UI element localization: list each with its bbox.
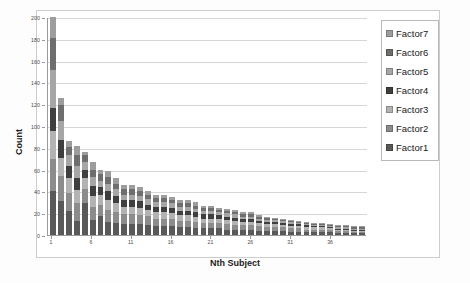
stacked-bar[interactable] <box>129 185 135 235</box>
legend-swatch-icon <box>386 106 393 113</box>
stacked-bar[interactable] <box>137 187 143 235</box>
bar-segment <box>90 170 96 178</box>
stacked-bar[interactable] <box>90 162 96 235</box>
legend-swatch-icon <box>386 125 393 132</box>
bar-segment <box>264 231 270 235</box>
bar-segment <box>58 176 64 201</box>
x-axis-tick-label: 26 <box>247 239 253 245</box>
bar-slot <box>65 18 73 235</box>
stacked-bar[interactable] <box>296 221 302 235</box>
bar-slot <box>97 18 105 235</box>
stacked-bar[interactable] <box>105 171 111 235</box>
bar-segment <box>74 221 80 235</box>
y-axis-tick-label: 0 <box>37 233 40 239</box>
stacked-bar[interactable] <box>58 98 64 235</box>
bar-segment <box>74 155 80 166</box>
bar-slot <box>350 18 358 235</box>
bar-slot <box>192 18 200 235</box>
stacked-bar[interactable] <box>201 206 207 235</box>
bar-segment <box>74 190 80 203</box>
legend-item-label: Factor7 <box>396 28 428 39</box>
stacked-bar[interactable] <box>304 222 310 235</box>
stacked-bar[interactable] <box>113 178 119 235</box>
bar-slot <box>184 18 192 235</box>
bar-slot <box>271 18 279 235</box>
stacked-bar[interactable] <box>248 212 254 235</box>
bar-segment <box>74 146 80 156</box>
stacked-bar[interactable] <box>327 224 333 235</box>
bar-slot <box>318 18 326 235</box>
x-axis-tick-label: 1 <box>50 239 53 245</box>
stacked-bar[interactable] <box>272 218 278 235</box>
legend-swatch-icon <box>386 87 393 94</box>
stacked-bar[interactable] <box>240 212 246 235</box>
stacked-bar[interactable] <box>216 208 222 235</box>
stacked-bar[interactable] <box>351 226 357 235</box>
stacked-bar[interactable] <box>169 197 175 235</box>
legend-item-factor2[interactable]: Factor2 <box>385 119 435 138</box>
stacked-bar[interactable] <box>145 191 151 235</box>
bar-segment <box>304 232 310 235</box>
bar-segment <box>319 232 325 235</box>
stacked-bar[interactable] <box>98 170 104 235</box>
x-axis-tick <box>131 236 132 239</box>
legend-item-label: Factor5 <box>396 66 428 77</box>
stacked-bar[interactable] <box>224 209 230 235</box>
bar-segment <box>98 187 104 195</box>
stacked-bar[interactable] <box>177 200 183 235</box>
bar-segment <box>50 70 56 107</box>
bar-segment <box>82 203 88 235</box>
bar-segment <box>58 105 64 120</box>
legend-item-factor1[interactable]: Factor1 <box>385 138 435 157</box>
bar-slot <box>128 18 136 235</box>
bar-segment <box>145 225 151 235</box>
legend-item-factor6[interactable]: Factor6 <box>385 43 435 62</box>
stacked-bar[interactable] <box>335 225 341 235</box>
stacked-bar[interactable] <box>82 152 88 235</box>
bar-segment <box>335 233 341 235</box>
bar-segment <box>66 166 72 178</box>
stacked-bar[interactable] <box>264 216 270 235</box>
stacked-bar[interactable] <box>319 223 325 235</box>
stacked-bar[interactable] <box>121 185 127 235</box>
stacked-bar[interactable] <box>256 215 262 235</box>
bar-segment <box>105 210 111 222</box>
legend-item-label: Factor2 <box>396 123 428 134</box>
bar-segment <box>129 224 135 235</box>
legend-item-factor5[interactable]: Factor5 <box>385 62 435 81</box>
stacked-bar[interactable] <box>311 223 317 235</box>
x-axis-tick-label: 16 <box>168 239 174 245</box>
stacked-bar[interactable] <box>185 200 191 235</box>
bar-segment <box>82 178 88 189</box>
stacked-bar[interactable] <box>343 225 349 235</box>
bar-segment <box>66 155 72 166</box>
x-axis-tick-label: 31 <box>287 239 293 245</box>
bar-slot <box>152 18 160 235</box>
bar-segment <box>113 212 119 223</box>
bar-segment <box>256 231 262 235</box>
legend-item-factor4[interactable]: Factor4 <box>385 81 435 100</box>
bar-slot <box>81 18 89 235</box>
legend-item-factor3[interactable]: Factor3 <box>385 100 435 119</box>
stacked-bar[interactable] <box>232 210 238 235</box>
stacked-bar[interactable] <box>359 226 365 235</box>
stacked-bar[interactable] <box>153 195 159 235</box>
stacked-bar[interactable] <box>193 202 199 235</box>
y-axis-tick <box>42 105 45 106</box>
stacked-bar[interactable] <box>280 219 286 235</box>
x-axis-tick-label: 11 <box>128 239 133 245</box>
plot-area <box>47 18 366 236</box>
stacked-bar[interactable] <box>208 206 214 235</box>
stacked-bar[interactable] <box>288 220 294 235</box>
x-axis-labels: 16111621263136 <box>47 236 366 250</box>
bar-segment <box>224 230 230 235</box>
stacked-bar[interactable] <box>74 146 80 235</box>
stacked-bar[interactable] <box>161 195 167 235</box>
stacked-bar[interactable] <box>66 141 72 235</box>
bar-segment <box>177 227 183 235</box>
bar-segment <box>58 121 64 141</box>
legend-item-factor7[interactable]: Factor7 <box>385 24 435 43</box>
stacked-bar[interactable] <box>50 17 56 235</box>
bar-slot <box>358 18 366 235</box>
bar-segment <box>153 226 159 235</box>
